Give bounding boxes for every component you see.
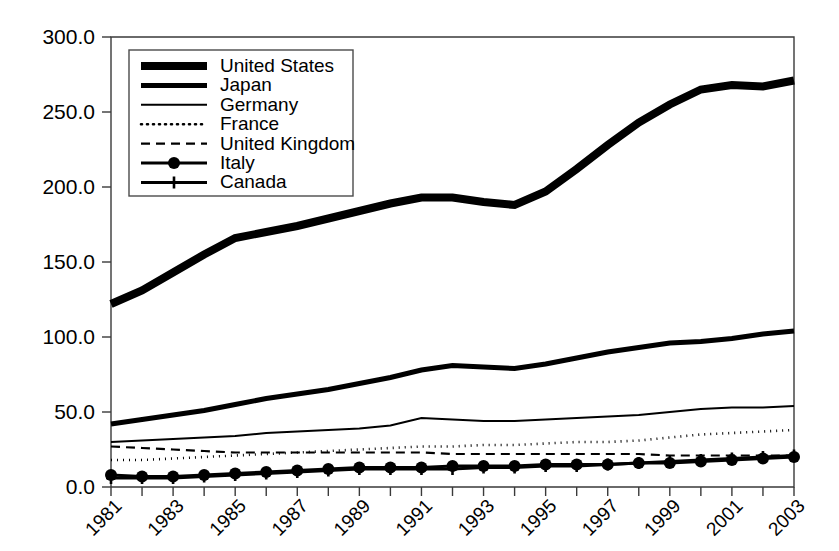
y-tick-label: 200.0 xyxy=(42,175,95,198)
legend-label: United Kingdom xyxy=(220,133,355,154)
y-tick-label: 50.0 xyxy=(54,400,95,423)
legend-label: Germany xyxy=(220,94,299,115)
legend-label: France xyxy=(220,113,279,134)
y-tick-label: 0.0 xyxy=(66,475,95,498)
line-chart: 0.050.0100.0150.0200.0250.0300.0 1981198… xyxy=(0,0,839,551)
y-tick-label: 300.0 xyxy=(42,25,95,48)
legend-marker xyxy=(168,157,180,169)
y-tick-label: 150.0 xyxy=(42,250,95,273)
legend-label: Canada xyxy=(220,171,287,192)
legend-label: Italy xyxy=(220,152,255,173)
y-tick-label: 100.0 xyxy=(42,325,95,348)
legend-label: Japan xyxy=(220,74,272,95)
legend-label: United States xyxy=(220,55,334,76)
y-tick-label: 250.0 xyxy=(42,100,95,123)
chart-container: 0.050.0100.0150.0200.0250.0300.0 1981198… xyxy=(0,0,839,551)
chart-legend: United StatesJapanGermanyFranceUnited Ki… xyxy=(129,50,355,196)
